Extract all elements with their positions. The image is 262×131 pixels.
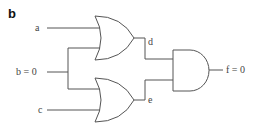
signal-e-label: e [148, 94, 153, 105]
input-c-label: c [38, 104, 43, 115]
logic-circuit-diagram: b a b = 0 c d e f = 0 [0, 0, 262, 131]
output-f-label: f = 0 [226, 64, 245, 75]
wire-e [134, 80, 173, 100]
and-gate [173, 50, 209, 91]
or-gate-bottom [95, 78, 134, 122]
wire-d [134, 38, 173, 59]
signal-d-label: d [148, 36, 153, 47]
input-a-label: a [35, 22, 40, 33]
panel-label: b [8, 6, 16, 21]
or-gate-top [95, 16, 134, 60]
input-b-label: b = 0 [16, 66, 37, 77]
